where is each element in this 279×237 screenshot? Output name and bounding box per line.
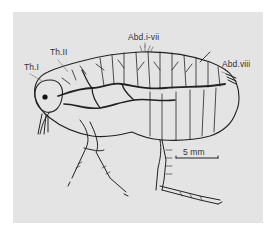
label-abd-viii: Abd.viii <box>222 59 250 69</box>
label-abd-i-vii: Abd.i-vii <box>128 32 159 42</box>
eye-icon <box>42 94 47 99</box>
label-th2: Th.II <box>50 47 68 57</box>
label-th1: Th.I <box>24 62 39 72</box>
scale-bar-label: 5 mm <box>183 147 205 157</box>
